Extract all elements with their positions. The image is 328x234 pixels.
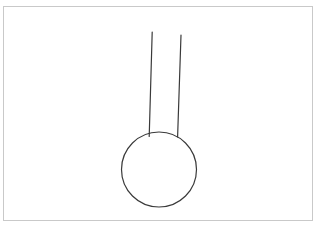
stem-line-right xyxy=(178,35,181,137)
stem-line-left xyxy=(149,32,152,137)
sketch-drawing xyxy=(0,0,328,234)
bulb-circle xyxy=(122,132,197,207)
screenshot-canvas xyxy=(0,0,328,234)
